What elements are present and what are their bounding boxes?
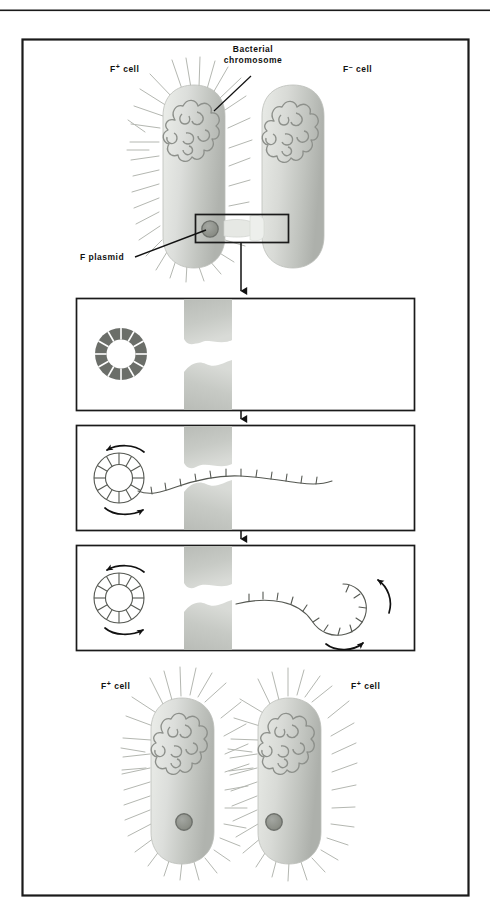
panel-1-plasmid-ring — [95, 328, 147, 380]
chromosome-label-line2: chromosome — [224, 55, 282, 65]
panel-2 — [77, 426, 415, 531]
bottom-right-plasmid — [266, 814, 282, 830]
f-plasmid-label: F plasmid — [80, 252, 124, 262]
panel-3 — [77, 546, 415, 651]
panel-2-recipient-blob — [184, 480, 232, 530]
panel-1-recipient-blob — [184, 360, 232, 410]
page-top-rule — [0, 10, 490, 12]
bottom-left-plasmid — [176, 814, 192, 830]
panel-2-donor-blob — [184, 426, 232, 468]
panel-1 — [77, 299, 415, 411]
bottom-right-cell — [258, 698, 321, 864]
chromosome-label-line1: Bacterial — [233, 44, 273, 54]
bottom-left-cell-label: F+ cell — [101, 680, 130, 691]
recipient-cell — [262, 85, 324, 268]
panel-3-recipient-blob — [184, 600, 232, 650]
donor-cell — [163, 85, 225, 268]
recipient-cell-label: F– cell — [343, 63, 372, 74]
bottom-left-cell — [151, 698, 214, 864]
figure-stage: F+ cell F– cell Bacterial chromosome F p… — [0, 0, 490, 916]
donor-cell-label: F+ cell — [110, 63, 139, 74]
conjugation-figure: F+ cell F– cell Bacterial chromosome F p… — [0, 0, 490, 916]
bottom-right-cell-label: F+ cell — [351, 680, 380, 691]
panel-1-donor-blob — [184, 299, 232, 344]
f-plasmid-dot — [202, 221, 218, 237]
panel-3-donor-blob — [184, 546, 232, 588]
